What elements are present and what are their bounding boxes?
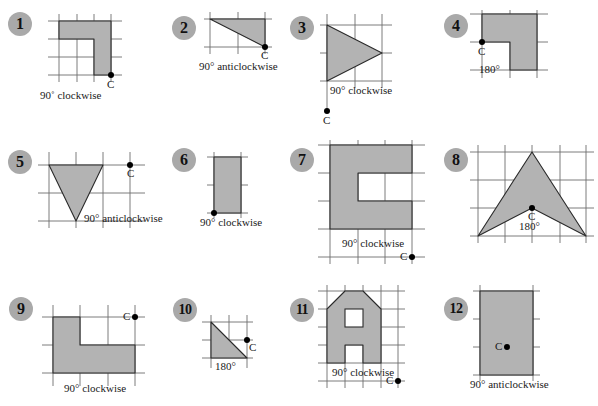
centre-label-12: C (495, 340, 502, 352)
rotation-label-3: 90° clockwise (330, 84, 392, 96)
rotation-label-1: 90˚ clockwise (40, 89, 101, 101)
centre-label-10: C (249, 341, 256, 353)
rectangle (480, 291, 533, 375)
l-shape (482, 14, 537, 70)
exercise-2-figure (204, 12, 272, 54)
rectangle (214, 157, 241, 213)
exercise-3-figure (320, 14, 392, 114)
triangle (210, 19, 265, 47)
centre-label-1: C (107, 78, 114, 90)
rotation-label-10: 180° (215, 360, 236, 372)
centre-point (132, 314, 138, 320)
rotation-label-12: 90° anticlockwise (470, 378, 549, 390)
centre-label-3: C (323, 114, 330, 126)
rotation-label-6: 90° clockwise (200, 216, 262, 228)
l-shape (53, 317, 135, 373)
rotation-label-9: 90° clockwise (64, 382, 126, 394)
triangle (327, 25, 382, 81)
centre-label-4: C (478, 45, 485, 57)
exercise-diagrams (0, 0, 598, 406)
rotation-label-5: 90° anticlockwise (84, 212, 163, 224)
centre-point (395, 378, 401, 384)
centre-label-5: C (127, 167, 134, 179)
c-shape (330, 145, 412, 229)
centre-label-9: C (123, 310, 130, 322)
rotation-label-8: 180° (519, 220, 540, 232)
centre-point (409, 254, 415, 260)
exercise-6-figure (207, 152, 248, 218)
exercise-12-figure (473, 285, 540, 381)
window-hole (345, 309, 363, 327)
rotation-label-2: 90° anticlockwise (199, 60, 278, 72)
rotation-label-4: 180° (479, 63, 500, 75)
centre-point (504, 344, 510, 350)
rotation-label-7: 90° clockwise (342, 237, 404, 249)
centre-label-7: C (400, 250, 407, 262)
l-shape (59, 21, 111, 75)
rotation-label-11: 90° clockwise (332, 366, 394, 378)
exercise-1-figure (48, 14, 122, 82)
